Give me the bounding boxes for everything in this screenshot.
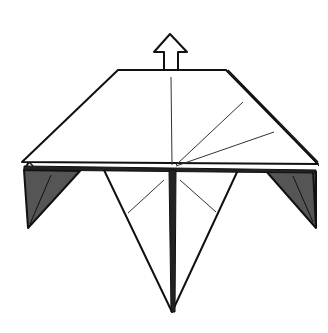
right-dark-flap	[266, 170, 316, 228]
left-dark-flap	[24, 162, 80, 228]
origami-diagram	[0, 0, 328, 333]
top-trapezoid-flap	[22, 70, 319, 166]
up-arrow-icon	[154, 34, 187, 70]
